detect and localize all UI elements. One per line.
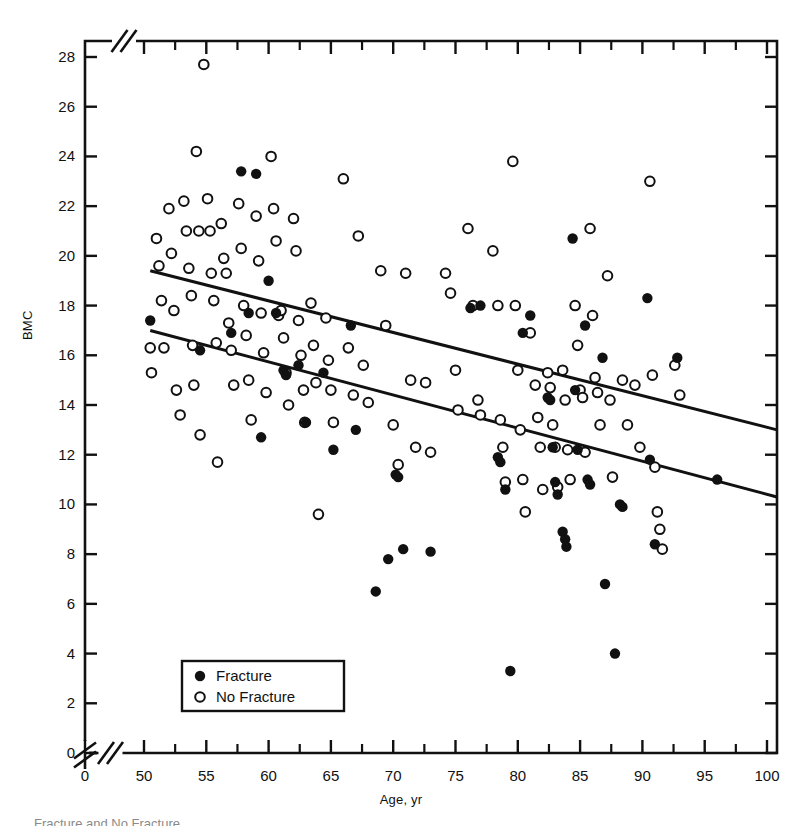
data-point-no-fracture <box>271 236 281 246</box>
data-point-no-fracture <box>593 388 603 398</box>
data-point-no-fracture <box>388 420 398 430</box>
y-axis-tick-labels: 0246810121416182022242628 <box>58 48 75 761</box>
data-point-no-fracture <box>603 271 613 281</box>
x-tick-label: 75 <box>447 767 464 784</box>
data-point-no-fracture <box>256 308 266 318</box>
data-point-fracture <box>580 320 590 330</box>
data-point-no-fracture <box>446 288 456 298</box>
data-point-fracture <box>393 472 403 482</box>
data-point-no-fracture <box>189 380 199 390</box>
data-point-no-fracture <box>535 442 545 452</box>
data-point-no-fracture <box>229 380 239 390</box>
data-point-fracture <box>610 648 620 658</box>
data-point-no-fracture <box>608 472 618 482</box>
data-point-no-fracture <box>314 510 324 520</box>
axis-frame <box>85 41 777 753</box>
data-point-no-fracture <box>518 475 528 485</box>
data-point-no-fracture <box>648 370 658 380</box>
data-point-fracture <box>567 233 577 243</box>
y-tick-label: 4 <box>67 645 75 662</box>
data-point-fracture <box>525 310 535 320</box>
data-point-no-fracture <box>187 291 197 301</box>
y-tick-label: 6 <box>67 595 75 612</box>
data-point-no-fracture <box>453 405 463 415</box>
legend-marker-no-fracture <box>195 692 205 702</box>
data-point-no-fracture <box>213 457 223 467</box>
data-point-no-fracture <box>291 246 301 256</box>
data-point-no-fracture <box>476 410 486 420</box>
data-point-no-fracture <box>358 360 368 370</box>
x-tick-label: 95 <box>696 767 713 784</box>
data-point-no-fracture <box>530 380 540 390</box>
data-point-no-fracture <box>585 224 595 234</box>
x-tick-label: 60 <box>260 767 277 784</box>
data-point-no-fracture <box>363 398 373 408</box>
y-tick-label: 28 <box>58 48 75 65</box>
data-point-no-fracture <box>192 147 202 157</box>
data-point-no-fracture <box>511 301 521 311</box>
data-point-no-fracture <box>169 306 179 316</box>
data-point-no-fracture <box>294 316 304 326</box>
data-point-fracture <box>293 360 303 370</box>
data-point-fracture <box>195 345 205 355</box>
data-point-no-fracture <box>401 268 411 278</box>
legend-label: No Fracture <box>216 688 295 705</box>
data-point-fracture <box>383 554 393 564</box>
x-tick-label: 55 <box>198 767 215 784</box>
data-point-no-fracture <box>558 365 568 375</box>
y-tick-label: 26 <box>58 98 75 115</box>
data-point-no-fracture <box>296 350 306 360</box>
data-point-fracture <box>301 417 311 427</box>
data-point-no-fracture <box>376 266 386 276</box>
y-tick-label: 14 <box>58 396 75 413</box>
data-point-no-fracture <box>548 420 558 430</box>
break-gap <box>99 749 123 757</box>
data-point-no-fracture <box>216 219 226 229</box>
data-point-no-fracture <box>311 378 321 388</box>
data-point-no-fracture <box>279 333 289 343</box>
data-point-fracture <box>351 425 361 435</box>
data-point-fracture <box>425 546 435 556</box>
x-tick-label: 0 <box>81 767 89 784</box>
data-point-fracture <box>281 370 291 380</box>
x-tick-label: 80 <box>509 767 526 784</box>
data-point-no-fracture <box>152 234 162 244</box>
data-point-fracture <box>561 541 571 551</box>
data-point-no-fracture <box>488 246 498 256</box>
data-point-no-fracture <box>630 380 640 390</box>
data-point-no-fracture <box>306 298 316 308</box>
legend-label: Fracture <box>216 667 272 684</box>
y-tick-label: 24 <box>58 147 75 164</box>
data-point-fracture <box>547 442 557 452</box>
data-point-no-fracture <box>655 524 665 534</box>
data-point-no-fracture <box>219 254 229 264</box>
data-point-no-fracture <box>498 442 508 452</box>
data-point-no-fracture <box>508 157 518 167</box>
data-point-no-fracture <box>309 341 319 351</box>
break-gap <box>112 37 136 45</box>
data-point-no-fracture <box>675 390 685 400</box>
data-point-fracture <box>371 586 381 596</box>
x-axis-title: Age, yr <box>0 792 802 807</box>
data-point-no-fracture <box>339 174 349 184</box>
data-point-no-fracture <box>211 338 221 348</box>
data-point-fracture <box>271 308 281 318</box>
data-point-fracture <box>226 328 236 338</box>
data-point-no-fracture <box>195 430 205 440</box>
data-point-fracture <box>328 445 338 455</box>
data-point-no-fracture <box>595 420 605 430</box>
y-tick-label: 0 <box>67 744 75 761</box>
legend-marker-fracture <box>195 671 205 681</box>
data-point-fracture <box>256 432 266 442</box>
data-point-fracture <box>398 544 408 554</box>
data-point-no-fracture <box>354 231 364 241</box>
data-point-fracture <box>475 300 485 310</box>
legend: FractureNo Fracture <box>182 661 344 711</box>
data-point-no-fracture <box>329 418 339 428</box>
y-tick-label: 2 <box>67 694 75 711</box>
data-point-no-fracture <box>157 296 167 306</box>
data-point-no-fracture <box>224 318 234 328</box>
data-point-fracture <box>550 477 560 487</box>
data-point-no-fracture <box>473 395 483 405</box>
data-point-no-fracture <box>545 383 555 393</box>
